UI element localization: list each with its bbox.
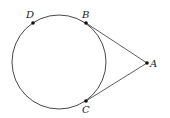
label-a: A xyxy=(149,58,157,69)
point-b xyxy=(84,21,88,25)
tangent-segment-ba xyxy=(86,23,147,63)
circle xyxy=(12,15,106,109)
point-d xyxy=(31,21,35,25)
label-d: D xyxy=(25,9,34,20)
label-b: B xyxy=(81,9,89,20)
tangent-circle-diagram: D B A C xyxy=(0,0,170,118)
point-a xyxy=(145,61,149,65)
point-c xyxy=(84,99,88,103)
label-c: C xyxy=(82,104,90,115)
tangent-segment-ca xyxy=(86,63,147,101)
